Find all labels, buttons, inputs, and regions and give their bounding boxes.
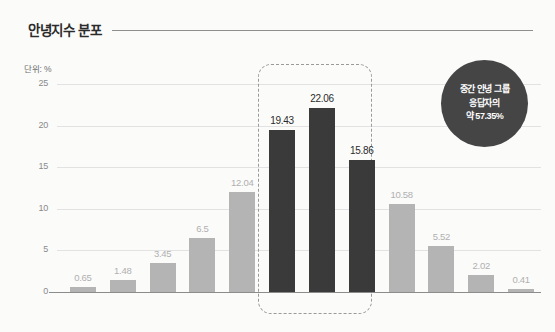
bar-value-label: 3.45	[154, 248, 171, 259]
bar-value-label: 22.06	[310, 93, 334, 104]
bar-value-label: 6.5	[196, 223, 208, 234]
bar-series: 0.650점1.481점 미만3.451점대6.52점대12.043점대19.4…	[0, 0, 555, 332]
bar-group: 3.451점대	[143, 40, 183, 292]
bar-9점대[interactable]	[468, 275, 494, 292]
bar-1점-미만[interactable]	[110, 280, 136, 292]
bar-5점대[interactable]	[309, 108, 335, 292]
bar-8점대[interactable]	[428, 246, 454, 292]
bar-4점대[interactable]	[269, 130, 295, 292]
bar-1점대[interactable]	[150, 263, 176, 292]
bar-group: 10.587점대	[382, 40, 422, 292]
bar-group: 15.866점대	[342, 40, 382, 292]
callout-line-1: 중간 안녕 그룹	[460, 83, 510, 97]
bar-value-label: 2.02	[473, 260, 490, 271]
callout-line-2: 응답자의	[469, 97, 499, 111]
callout-badge: 중간 안녕 그룹 응답자의 약 57.35%	[441, 60, 528, 147]
bar-group: 22.065점대	[302, 40, 342, 292]
bar-group: 0.650점	[63, 40, 103, 292]
bar-value-label: 10.58	[390, 189, 412, 200]
bar-2점대[interactable]	[189, 238, 215, 292]
bar-7점대[interactable]	[389, 204, 415, 292]
bar-10점[interactable]	[508, 289, 534, 292]
bar-value-label: 19.43	[270, 115, 294, 126]
bar-value-label: 15.86	[350, 145, 374, 156]
bar-group: 6.52점대	[183, 40, 223, 292]
bar-3점대[interactable]	[229, 192, 255, 292]
bar-group: 12.043점대	[222, 40, 262, 292]
bar-value-label: 5.52	[433, 231, 450, 242]
bar-value-label: 12.04	[231, 177, 253, 188]
bar-group: 1.481점 미만	[103, 40, 143, 292]
bar-value-label: 0.41	[512, 274, 529, 285]
bar-6점대[interactable]	[349, 160, 375, 292]
callout-line-3: 약 57.35%	[466, 110, 504, 124]
bar-value-label: 0.65	[74, 272, 91, 283]
bar-group: 19.434점대	[262, 40, 302, 292]
bar-0점[interactable]	[70, 287, 96, 292]
bar-value-label: 1.48	[114, 265, 131, 276]
chart-plot-area: 단위: % 0510152025 0.650점1.481점 미만3.451점대6…	[0, 0, 555, 332]
